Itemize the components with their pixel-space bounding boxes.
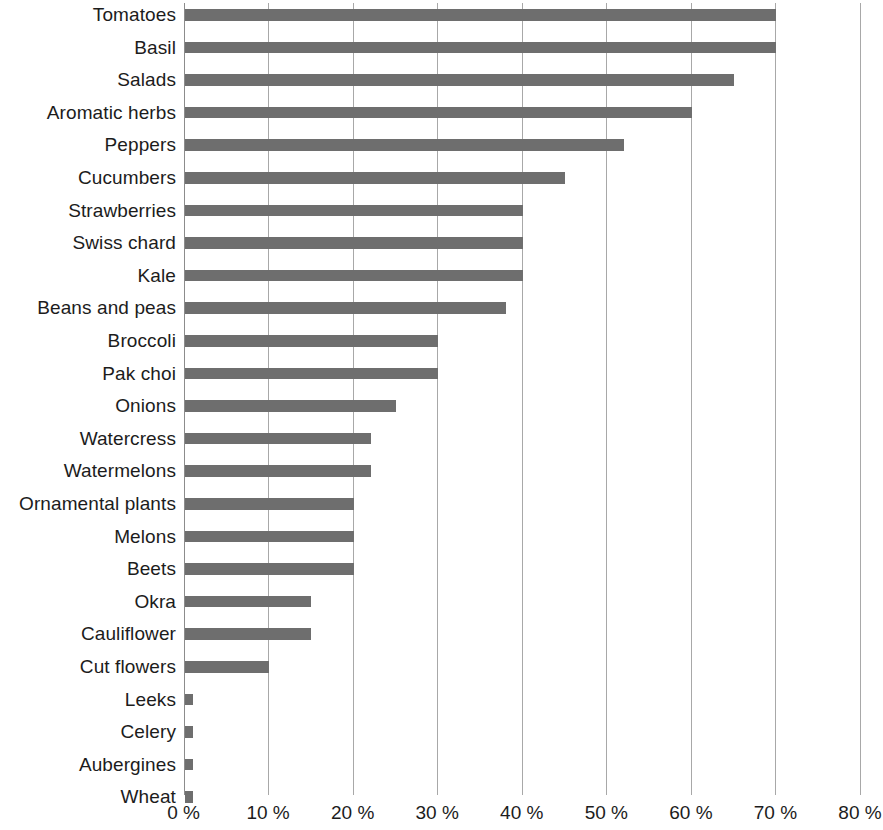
x-tick-label: 10 % — [246, 800, 289, 826]
category-label: Pak choi — [102, 357, 176, 390]
bar — [185, 335, 439, 347]
bar-row: Kale — [0, 259, 883, 292]
bar-row: Aromatic herbs — [0, 96, 883, 129]
category-label: Watermelons — [64, 454, 176, 487]
category-label: Basil — [134, 31, 176, 64]
bar — [185, 596, 312, 608]
category-label: Celery — [120, 715, 176, 748]
x-tick-label: 70 % — [754, 800, 797, 826]
category-label: Tomatoes — [93, 0, 176, 31]
bar — [185, 465, 371, 477]
bar — [185, 726, 193, 738]
bar — [185, 139, 625, 151]
bar-row: Broccoli — [0, 324, 883, 357]
bar — [185, 42, 777, 54]
bar-row: Cauliflower — [0, 617, 883, 650]
category-label: Beets — [127, 552, 176, 585]
x-tick-label: 60 % — [669, 800, 712, 826]
bar — [185, 9, 777, 21]
category-label: Aubergines — [79, 748, 176, 781]
bar-row: Leeks — [0, 683, 883, 716]
bar-row: Basil — [0, 31, 883, 64]
bar — [185, 563, 354, 575]
category-label: Ornamental plants — [19, 487, 176, 520]
bar-row: Strawberries — [0, 194, 883, 227]
bar-row: Salads — [0, 63, 883, 96]
category-label: Melons — [114, 520, 176, 553]
bar — [185, 74, 735, 86]
bar — [185, 498, 354, 510]
x-tick-label: 40 % — [500, 800, 543, 826]
category-label: Cauliflower — [81, 617, 176, 650]
bar-chart: TomatoesBasilSaladsAromatic herbsPeppers… — [0, 0, 883, 830]
x-tick-label: 20 % — [331, 800, 374, 826]
bar — [185, 270, 523, 282]
category-label: Leeks — [125, 683, 176, 716]
bar — [185, 368, 439, 380]
category-label: Beans and peas — [37, 291, 176, 324]
bar — [185, 205, 523, 217]
bar-row: Watercress — [0, 422, 883, 455]
bar-row: Tomatoes — [0, 0, 883, 31]
bar — [185, 172, 566, 184]
bar — [185, 433, 371, 445]
bar-row: Beans and peas — [0, 291, 883, 324]
bar-row: Pak choi — [0, 357, 883, 390]
bar — [185, 759, 193, 771]
category-label: Broccoli — [108, 324, 176, 357]
category-label: Onions — [115, 389, 176, 422]
bar — [185, 237, 523, 249]
bar-row: Celery — [0, 715, 883, 748]
bar-row: Aubergines — [0, 748, 883, 781]
category-label: Cucumbers — [78, 161, 176, 194]
x-tick-label: 0 % — [167, 800, 200, 826]
x-tick-label: 80 % — [838, 800, 881, 826]
category-label: Okra — [134, 585, 176, 618]
bar-row: Cucumbers — [0, 161, 883, 194]
category-label: Salads — [117, 63, 176, 96]
bar — [185, 107, 692, 119]
bar — [185, 531, 354, 543]
category-label: Kale — [138, 259, 176, 292]
bar — [185, 302, 506, 314]
bar-row: Peppers — [0, 128, 883, 161]
category-label: Watercress — [80, 422, 176, 455]
category-label: Strawberries — [68, 194, 176, 227]
bar-row: Cut flowers — [0, 650, 883, 683]
bar — [185, 628, 312, 640]
category-label: Swiss chard — [72, 226, 176, 259]
bar-row: Ornamental plants — [0, 487, 883, 520]
bar-rows: TomatoesBasilSaladsAromatic herbsPeppers… — [0, 0, 883, 830]
bar-row: Okra — [0, 585, 883, 618]
x-axis: 0 %10 %20 %30 %40 %50 %60 %70 %80 % — [0, 800, 883, 830]
bar — [185, 400, 396, 412]
bar — [185, 694, 193, 706]
bar-row: Beets — [0, 552, 883, 585]
category-label: Aromatic herbs — [47, 96, 176, 129]
x-tick-label: 30 % — [416, 800, 459, 826]
bar — [185, 661, 270, 673]
bar-row: Onions — [0, 389, 883, 422]
category-label: Peppers — [105, 128, 176, 161]
bar-row: Watermelons — [0, 454, 883, 487]
category-label: Cut flowers — [80, 650, 176, 683]
x-tick-label: 50 % — [585, 800, 628, 826]
bar-row: Swiss chard — [0, 226, 883, 259]
bar-row: Melons — [0, 520, 883, 553]
